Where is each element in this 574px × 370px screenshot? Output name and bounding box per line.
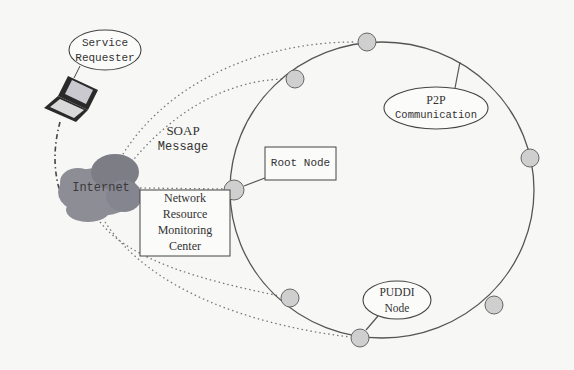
ring-node-bottom[interactable]	[351, 329, 369, 347]
ring-node-lower-left[interactable]	[281, 289, 299, 307]
ring-node-top[interactable]	[358, 33, 376, 51]
puddi-connector	[366, 316, 378, 330]
soap-message-label: SOAP Message	[148, 122, 218, 156]
puddi-node-label: PUDDI Node	[363, 284, 431, 316]
monitoring-center-label: Network Resource Monitoring Center	[140, 190, 230, 254]
ring-node-lower-right[interactable]	[485, 296, 503, 314]
service-requester-label: Service Requester	[69, 36, 141, 66]
service-requester-tail	[74, 66, 80, 78]
laptop-icon[interactable]	[44, 76, 98, 122]
internet-label: Internet	[66, 181, 136, 196]
p2p-connector	[455, 62, 460, 88]
p2p-network-diagram: Service Requester SOAP Message Internet …	[0, 0, 574, 370]
ring-node-right[interactable]	[521, 149, 539, 167]
p2p-communication-label: P2P Communication	[384, 93, 488, 123]
dotted-link-left	[140, 188, 224, 189]
ring-node-upper-left[interactable]	[286, 70, 304, 88]
root-node-connector	[244, 178, 265, 186]
root-node-label: Root Node	[265, 156, 336, 171]
